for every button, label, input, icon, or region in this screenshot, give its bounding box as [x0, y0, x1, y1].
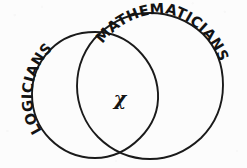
venn-diagram-canvas: LOGICIANS MATHEMATICIANS χ	[0, 0, 247, 168]
label-logicians-text: LOGICIANS	[19, 40, 55, 138]
intersection-symbol-chi: χ	[112, 87, 128, 109]
label-mathematicians: MATHEMATICIANS	[92, 0, 231, 63]
venn-diagram-figure: LOGICIANS MATHEMATICIANS χ	[0, 0, 247, 168]
label-logicians: LOGICIANS	[19, 40, 55, 138]
label-mathematicians-text: MATHEMATICIANS	[92, 0, 231, 63]
